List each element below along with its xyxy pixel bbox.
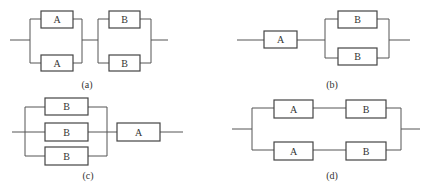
block-b-bottom: B (338, 48, 377, 65)
block-b-bottom: B (346, 142, 386, 160)
diagram-d: A B A B (d) (232, 100, 420, 182)
diagram-c: B B B A (c) (12, 98, 183, 182)
block-a-top: A (274, 100, 313, 118)
svg-text:B: B (63, 127, 70, 138)
svg-text:B: B (121, 14, 128, 25)
svg-text:B: B (63, 101, 70, 112)
block-a-bottom: A (274, 142, 313, 160)
block-b-top: B (109, 11, 140, 28)
block-a: A (264, 31, 297, 48)
diagram-a: A A B B (a) (10, 11, 168, 91)
block-b-middle: B (45, 123, 88, 141)
svg-text:A: A (290, 146, 298, 157)
block-a: A (117, 123, 160, 141)
block-a-bottom: A (41, 55, 73, 71)
block-b-bottom: B (45, 147, 88, 165)
svg-text:B: B (354, 14, 361, 25)
svg-text:A: A (53, 58, 61, 69)
block-b-top: B (346, 100, 386, 118)
svg-text:B: B (63, 151, 70, 162)
svg-text:A: A (135, 127, 143, 138)
svg-text:B: B (363, 104, 370, 115)
block-b-top: B (45, 98, 88, 115)
caption-d: (d) (326, 170, 338, 182)
block-b-bottom: B (109, 55, 140, 71)
caption-c: (c) (82, 170, 93, 182)
svg-text:A: A (277, 34, 285, 45)
svg-text:A: A (290, 104, 298, 115)
svg-text:A: A (53, 14, 61, 25)
block-b-top: B (338, 11, 377, 28)
block-a-top: A (41, 11, 73, 28)
diagram-b: A B B (b) (237, 11, 410, 91)
caption-b: (b) (326, 79, 338, 91)
caption-a: (a) (81, 79, 92, 91)
svg-text:B: B (363, 146, 370, 157)
svg-text:B: B (354, 51, 361, 62)
svg-text:B: B (121, 58, 128, 69)
